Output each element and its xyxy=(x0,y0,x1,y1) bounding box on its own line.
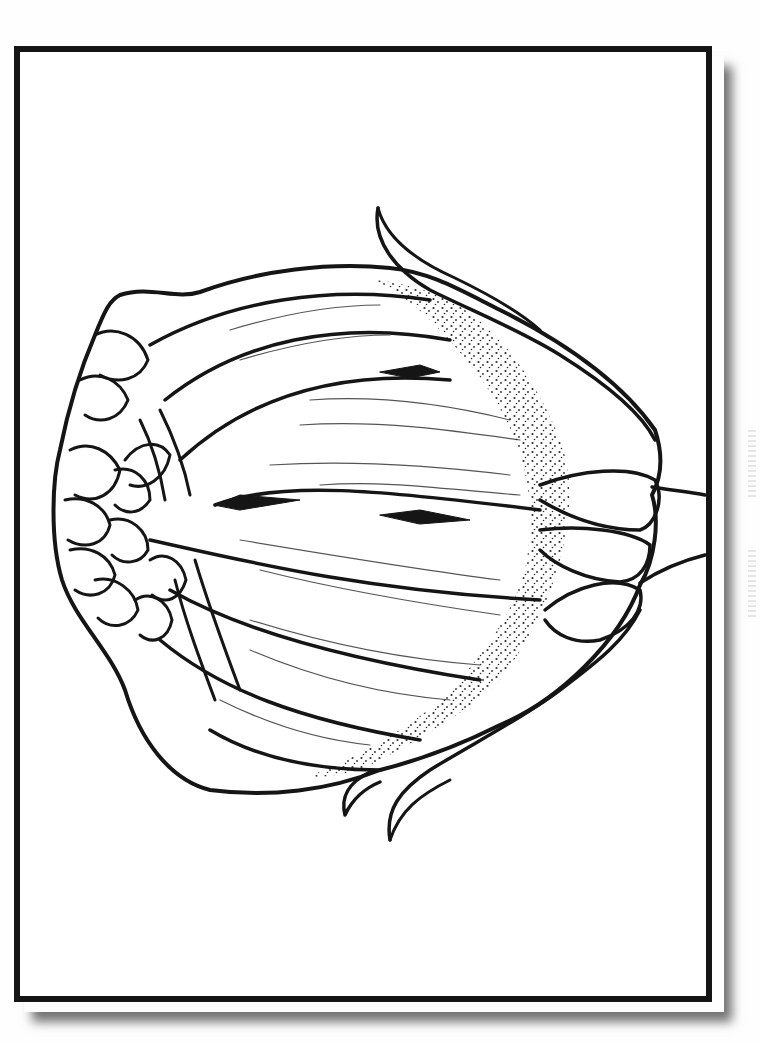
coloring-page xyxy=(0,0,760,1043)
petal xyxy=(150,540,540,600)
bud-base-scales xyxy=(65,331,186,640)
ink-wedge xyxy=(215,495,300,510)
flower-bud-illustration xyxy=(0,0,760,1043)
petal xyxy=(180,378,450,460)
ink-wedge xyxy=(380,365,440,378)
stipple-shading xyxy=(310,280,569,777)
petal xyxy=(170,590,480,680)
ink-wedge xyxy=(380,510,470,524)
petal xyxy=(150,294,430,345)
